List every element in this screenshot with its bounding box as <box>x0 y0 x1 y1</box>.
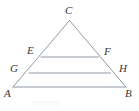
vertex-label-H: H <box>119 63 127 74</box>
vertex-label-F: F <box>104 46 111 57</box>
segment-right-side-BC <box>70 21 127 88</box>
parallel-cross-lines <box>29 57 111 73</box>
vertex-label-A: A <box>4 88 11 99</box>
triangle-diagram-canvas <box>0 0 139 111</box>
vertex-label-B: B <box>125 88 132 99</box>
scan-artifact <box>33 101 61 108</box>
vertex-label-E: E <box>27 45 34 56</box>
segment-left-side-AC <box>13 21 70 88</box>
vertex-label-C: C <box>65 5 72 16</box>
vertex-label-G: G <box>10 63 18 74</box>
geometry-figure: C E F G H A B <box>0 0 139 111</box>
